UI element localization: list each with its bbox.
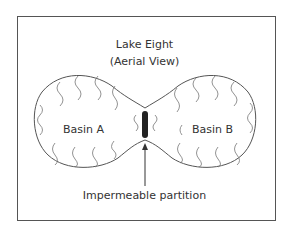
water-waves-basin-b — [153, 76, 253, 167]
arrow-up-icon — [142, 143, 148, 186]
partition-label: Impermeable partition — [0, 190, 289, 201]
basin-a-label: Basin A — [63, 124, 104, 135]
diagram-title: Lake Eight — [0, 39, 289, 50]
basin-b-label: Basin B — [192, 124, 233, 135]
impermeable-partition — [142, 111, 148, 138]
diagram-subtitle: (Aerial View) — [0, 56, 289, 67]
